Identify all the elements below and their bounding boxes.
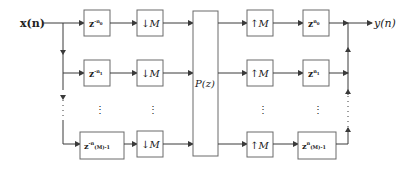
upsample-label-2: ↑M: [250, 140, 269, 151]
input-label: x(n): [20, 17, 45, 30]
downsample-label-0: ↓M: [141, 18, 160, 29]
split-arrow-icon: [60, 50, 66, 55]
sum-arrow-icon: [345, 47, 351, 52]
upsample-label-0: ↑M: [250, 18, 269, 29]
sum-arrow-icon: [345, 89, 351, 94]
ellipsis-up: ⋮: [258, 104, 268, 115]
split-arrow-icon: [60, 95, 66, 100]
ellipsis-delay-out: ⋮: [313, 104, 323, 115]
polyphase-matrix-label: P(z): [194, 78, 215, 89]
upsample-label-1: ↑M: [250, 68, 269, 79]
downsample-label-2: ↓M: [141, 139, 160, 150]
sum-arrow-icon: [345, 127, 351, 132]
downsample-label-1: ↓M: [141, 68, 160, 79]
filter-bank-diagram: x(n) z-n0 ↓M z-n1 ↓M ⋮ ⋮ ⋮ ⋮ z-n(M)-1 ↓M…: [0, 0, 419, 169]
ellipsis-down: ⋮: [148, 104, 158, 115]
output-label: y(n): [373, 17, 396, 30]
ellipsis-delay-in: ⋮: [95, 104, 105, 115]
